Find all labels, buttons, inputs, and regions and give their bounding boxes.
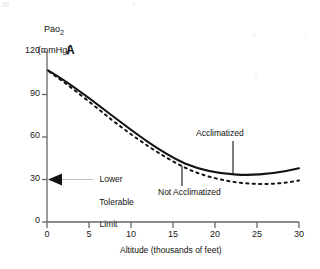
figure-panel-a: Pao2 (mmHg) A 120 90 60 30 0 0 5 10 15 2… [0,0,320,269]
lower-tolerable-limit-arrow-icon [48,174,62,186]
series-acclimatized-curve [48,70,299,175]
x-axis-ticks [47,222,299,228]
plot-svg [0,0,320,269]
y-axis-ticks [42,52,47,222]
series-not-acclimatized-curve [49,72,299,185]
